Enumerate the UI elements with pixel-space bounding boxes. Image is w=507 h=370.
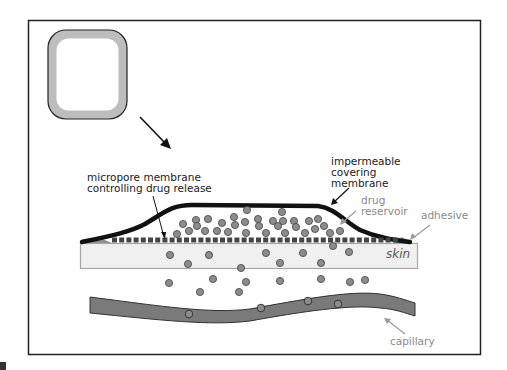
drug-reservoir-label-line2: reservoir [361, 206, 408, 217]
capillary-pointer [387, 320, 405, 334]
capillary-label: capillary [390, 336, 435, 347]
skin-label: skin [386, 249, 410, 260]
skin-layer [81, 244, 418, 269]
adhesive-pointer [413, 225, 430, 238]
micropore-label-line2: controlling drug release [87, 183, 212, 194]
impermeable-label-line3: membrane [331, 178, 388, 189]
corner-mark [0, 362, 6, 370]
drug-reservoir-dots [173, 206, 343, 237]
transdermal-patch-diagram [0, 0, 507, 370]
adhesive-label: adhesive [421, 210, 468, 221]
patch-top-view-icon [48, 30, 127, 119]
arrow-down-right-icon [140, 117, 171, 149]
capillary [90, 293, 415, 323]
